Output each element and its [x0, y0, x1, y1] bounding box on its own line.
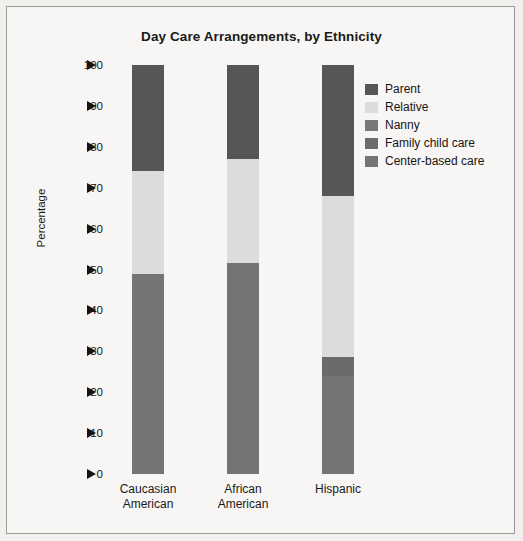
- y-tick-marker-icon: [87, 101, 96, 111]
- chart-legend: ParentRelativeNannyFamily child careCent…: [365, 80, 484, 170]
- legend-item-label: Parent: [385, 82, 420, 96]
- bar-segment[interactable]: [227, 159, 259, 263]
- legend-swatch-icon: [365, 84, 378, 95]
- y-tick-marker-icon: [87, 224, 96, 234]
- y-tick-marker-icon: [87, 183, 96, 193]
- bar-segment[interactable]: [322, 357, 354, 375]
- x-axis-label: Hispanic: [278, 482, 398, 497]
- bar-segment[interactable]: [132, 274, 164, 474]
- legend-item-label: Relative: [385, 100, 428, 114]
- y-tick-marker-icon: [87, 305, 96, 315]
- bar-segment[interactable]: [322, 65, 354, 196]
- legend-item[interactable]: Family child care: [365, 134, 484, 152]
- legend-swatch-icon: [365, 138, 378, 149]
- y-tick-marker-icon: [87, 346, 96, 356]
- y-tick-marker-icon: [87, 469, 96, 479]
- y-tick-marker-icon: [87, 60, 96, 70]
- chart-page: Day Care Arrangements, by Ethnicity Perc…: [0, 0, 523, 541]
- plot-frame: Day Care Arrangements, by Ethnicity Perc…: [6, 6, 515, 534]
- legend-swatch-icon: [365, 120, 378, 131]
- stacked-bar[interactable]: [132, 65, 164, 474]
- stacked-bar[interactable]: [227, 65, 259, 474]
- y-tick-marker-icon: [87, 265, 96, 275]
- legend-swatch-icon: [365, 102, 378, 113]
- legend-item[interactable]: Relative: [365, 98, 484, 116]
- legend-item[interactable]: Parent: [365, 80, 484, 98]
- legend-item[interactable]: Nanny: [365, 116, 484, 134]
- legend-item[interactable]: Center-based care: [365, 152, 484, 170]
- y-tick-marker-icon: [87, 387, 96, 397]
- y-tick-marker-icon: [87, 428, 96, 438]
- stacked-bar[interactable]: [322, 65, 354, 474]
- page-title: Day Care Arrangements, by Ethnicity: [7, 29, 516, 44]
- bar-segment[interactable]: [132, 171, 164, 273]
- bar-segment[interactable]: [227, 65, 259, 159]
- y-axis-title: Percentage: [35, 158, 47, 278]
- bar-segment[interactable]: [322, 196, 354, 358]
- bar-segment[interactable]: [132, 65, 164, 171]
- legend-item-label: Center-based care: [385, 154, 484, 168]
- legend-swatch-icon: [365, 156, 378, 167]
- y-tick-marker-icon: [87, 142, 96, 152]
- bar-segment[interactable]: [227, 263, 259, 474]
- legend-item-label: Nanny: [385, 118, 420, 132]
- legend-item-label: Family child care: [385, 136, 475, 150]
- bar-segment[interactable]: [322, 376, 354, 474]
